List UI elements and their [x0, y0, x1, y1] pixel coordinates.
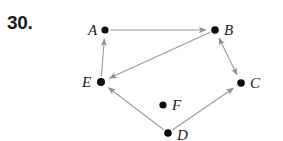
edge-e-a: [101, 39, 104, 76]
vertex-label-c: C: [250, 75, 261, 91]
edge-b-e: [110, 32, 211, 78]
edge-b-c: [219, 38, 237, 74]
vertex-label-f: F: [171, 97, 182, 113]
vertex-d: [164, 129, 172, 137]
vertex-a: [101, 26, 108, 33]
vertex-c: [237, 79, 245, 87]
vertex-label-d: D: [176, 127, 188, 141]
directed-graph-diagram: ABCDEF: [0, 0, 283, 141]
vertex-labels-group: ABCDEF: [81, 22, 261, 141]
figure-container: 30. ABCDEF: [0, 0, 283, 141]
edges-group: [101, 30, 236, 130]
vertex-label-a: A: [87, 22, 98, 38]
edge-d-c: [172, 88, 233, 130]
edge-d-e: [109, 88, 164, 130]
vertex-f: [159, 101, 166, 108]
vertex-e: [97, 78, 105, 86]
vertex-label-e: E: [81, 74, 91, 90]
vertices-group: [97, 26, 245, 137]
vertex-label-b: B: [224, 22, 233, 38]
vertex-b: [211, 26, 219, 34]
